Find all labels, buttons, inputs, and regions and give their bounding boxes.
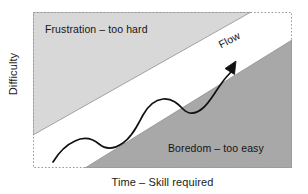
flow-channel-diagram: Difficulty Frustration – too hard Boredo… [0,0,308,194]
boredom-label: Boredom – too easy [168,142,264,154]
x-axis-label: Time – Skill required [33,176,292,188]
frustration-label: Frustration – too hard [45,23,148,35]
y-axis-label: Difficulty [7,34,19,114]
plot-area: Frustration – too hard Boredom – too eas… [33,12,292,168]
